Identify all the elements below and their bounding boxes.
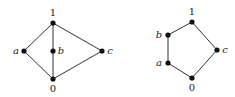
node-label-m3-c: c [107,45,113,56]
node-label-n5-1: 1 [189,6,195,17]
node-label-m3-0: 0 [50,83,56,94]
node-label-m3-a: a [13,45,19,56]
node-label-n5-0: 0 [189,82,195,93]
labels-layer: 1abc01bac0 [13,6,228,94]
edge-n5-c-0 [192,50,217,78]
nodes-layer [21,19,219,81]
node-n5-0 [189,75,194,80]
node-n5-c [214,47,219,52]
node-label-n5-c: c [222,44,228,55]
node-n5-1 [189,19,194,24]
node-m3-c [99,48,104,53]
node-label-n5-a: a [156,57,162,68]
edge-n5-a-0 [168,63,192,78]
node-label-m3-1: 1 [50,7,56,18]
edge-m3-a-0 [24,51,53,79]
node-n5-a [165,60,170,65]
node-m3-0 [50,76,55,81]
node-m3-b [50,48,55,53]
node-label-n5-b: b [156,29,162,40]
node-m3-a [21,48,26,53]
node-label-m3-b: b [58,45,64,56]
lattice-diagrams: 1abc01bac0 [0,0,235,97]
edge-m3-1-a [24,23,53,51]
edge-n5-1-c [192,22,217,50]
node-n5-b [165,32,170,37]
edge-n5-1-b [168,22,192,35]
node-m3-1 [50,20,55,25]
